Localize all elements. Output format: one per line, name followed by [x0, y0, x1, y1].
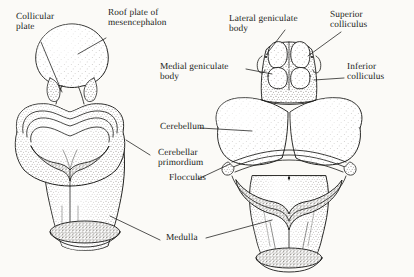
leader-inferior-colliculus — [314, 78, 344, 80]
label-medulla: Medulla — [166, 233, 198, 243]
label-lateral-geniculate-body: Lateral geniculate body — [229, 14, 298, 35]
label-cerebellum: Cerebellum — [160, 122, 204, 132]
anatomical-illustration — [0, 0, 414, 277]
label-collicular-plate: Collicular plate — [16, 12, 54, 33]
label-flocculus: Flocculus — [169, 173, 206, 183]
left-specimen — [15, 24, 125, 251]
right-specimen — [216, 42, 362, 272]
leader-superior-colliculus — [308, 32, 341, 56]
anatomy-figure: Collicular plate Roof plate of mesenceph… — [0, 0, 414, 277]
label-medial-geniculate-body: Medial geniculate body — [160, 62, 229, 83]
label-cerebellar-primordium: Cerebellar primordium — [158, 148, 203, 169]
label-superior-colliculus: Superior colliculus — [330, 10, 367, 31]
label-inferior-colliculus: Inferior colliculus — [347, 62, 384, 83]
leader-cerebellar-primordium — [126, 140, 150, 155]
label-roof-plate-of-mesencephalon: Roof plate of mesencephalon — [108, 8, 167, 29]
